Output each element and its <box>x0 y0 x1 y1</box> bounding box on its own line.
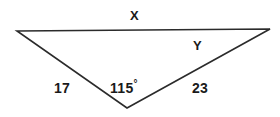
angle-value: 115 <box>110 80 134 96</box>
triangle-outline <box>17 29 270 108</box>
triangle-figure: X Y 17 115° 23 <box>0 0 280 117</box>
angle-label-115-degrees: 115° <box>110 81 138 95</box>
angle-label-y: Y <box>193 39 202 52</box>
side-label-23: 23 <box>192 81 208 95</box>
side-label-17: 17 <box>54 81 70 95</box>
side-label-x: X <box>130 9 139 22</box>
degree-icon: ° <box>134 78 138 89</box>
triangle-shape <box>0 0 280 117</box>
